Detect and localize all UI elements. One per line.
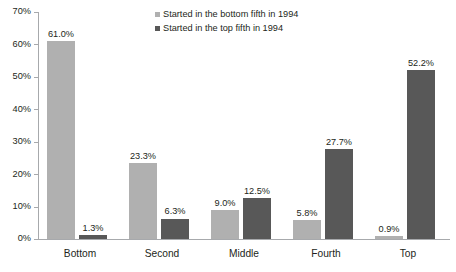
y-axis-tick: [34, 77, 38, 78]
bar-chart: Started in the bottom fifth in 1994 Star…: [0, 0, 456, 272]
bar-value-label: 0.9%: [366, 225, 412, 234]
x-axis-category-label: Fourth: [285, 248, 367, 260]
bar-group: 61.0%1.3%: [39, 12, 121, 239]
bar-group: 5.8%27.7%: [285, 12, 367, 239]
y-axis-tick-label: 10%: [0, 202, 31, 211]
bar-group: 0.9%52.2%: [367, 12, 449, 239]
x-axis-category-label: Second: [121, 248, 203, 260]
y-axis-tick: [34, 142, 38, 143]
bar-value-label: 6.3%: [152, 207, 198, 216]
bar[interactable]: [243, 198, 271, 239]
y-axis-tick: [34, 109, 38, 110]
y-axis-tick: [34, 239, 38, 240]
bar-value-label: 23.3%: [120, 152, 166, 161]
x-axis-line: [38, 239, 450, 240]
x-axis-category-label: Top: [367, 248, 449, 260]
bar[interactable]: [129, 163, 157, 239]
x-axis-category-labels: BottomSecondMiddleFourthTop: [39, 248, 450, 264]
x-axis-category-label: Middle: [203, 248, 285, 260]
plot-area: 61.0%1.3%23.3%6.3%9.0%12.5%5.8%27.7%0.9%…: [39, 12, 450, 239]
x-axis-category-label: Bottom: [39, 248, 121, 260]
bar-value-label: 61.0%: [38, 30, 84, 39]
y-axis-tick: [34, 44, 38, 45]
bar[interactable]: [325, 149, 353, 239]
y-axis-tick-label: 50%: [0, 72, 31, 81]
y-axis-tick: [34, 207, 38, 208]
bar[interactable]: [161, 219, 189, 239]
bar[interactable]: [211, 210, 239, 239]
bar[interactable]: [47, 41, 75, 239]
y-axis-tick-label: 30%: [0, 137, 31, 146]
bar-value-label: 5.8%: [284, 209, 330, 218]
bar[interactable]: [79, 235, 107, 239]
bar-group: 9.0%12.5%: [203, 12, 285, 239]
bar-value-label: 12.5%: [234, 187, 280, 196]
bar[interactable]: [375, 236, 403, 239]
y-axis-tick-label: 20%: [0, 170, 31, 179]
bar[interactable]: [293, 220, 321, 239]
bar-value-label: 27.7%: [316, 138, 362, 147]
y-axis-tick-label: 40%: [0, 105, 31, 114]
y-axis-tick-label: 0%: [0, 234, 31, 243]
y-axis-tick-label: 70%: [0, 7, 31, 16]
bar-value-label: 52.2%: [398, 59, 444, 68]
bar-value-label: 9.0%: [202, 199, 248, 208]
bar[interactable]: [407, 70, 435, 239]
bar-value-label: 1.3%: [70, 224, 116, 233]
bar-group: 23.3%6.3%: [121, 12, 203, 239]
y-axis-tick: [34, 12, 38, 13]
y-axis-tick-label: 60%: [0, 40, 31, 49]
y-axis-tick: [34, 174, 38, 175]
